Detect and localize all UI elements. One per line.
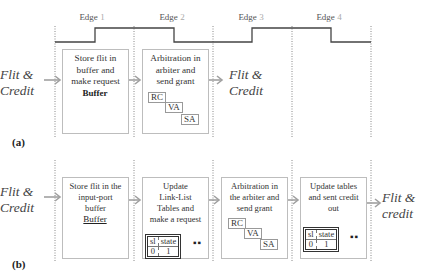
table-cell: 0 bbox=[148, 247, 158, 257]
pipeline-va-b: VA bbox=[244, 228, 262, 239]
output-label-line: Credit bbox=[229, 83, 263, 99]
text-line: send grant bbox=[143, 76, 208, 88]
buffer-title-b: Buffer bbox=[80, 214, 110, 224]
input-label-line: Flit & bbox=[0, 67, 34, 83]
edge-text: Edge bbox=[159, 12, 178, 22]
text-line: arbiter and bbox=[143, 65, 208, 77]
edge-number: 3 bbox=[259, 12, 264, 22]
stage-description: Store flit in buffer and make request bbox=[63, 50, 128, 88]
stage-description: Update tables and sent credit out bbox=[301, 178, 366, 214]
edge-number: 1 bbox=[100, 12, 105, 22]
table-cell: 0 bbox=[306, 240, 316, 250]
input-label-a: Flit & Credit bbox=[0, 67, 34, 99]
table-cell: 1 bbox=[316, 240, 336, 250]
stage-description: Arbitration in the arbiter and send gran… bbox=[222, 178, 287, 214]
buffer-title-a: Buffer bbox=[80, 88, 110, 98]
state-table-b4: sl state 0 1 bbox=[303, 227, 339, 252]
edge-text: Edge bbox=[316, 12, 335, 22]
text-line: the arbiter and bbox=[222, 192, 287, 203]
more-entries-icon: ▪▪ bbox=[350, 231, 359, 242]
text-line: Arbitration in bbox=[222, 181, 287, 192]
text-line: buffer and bbox=[63, 65, 128, 77]
edge-label-2: Edge 2 bbox=[152, 12, 192, 22]
output-label-line: Flit & bbox=[382, 190, 415, 206]
stage-description: Store flit in the input-port buffer bbox=[63, 178, 128, 214]
text-line: Store flit in the bbox=[63, 181, 128, 192]
table-cell: 1 bbox=[158, 247, 178, 257]
text-line: make request bbox=[63, 76, 128, 88]
pipeline-sa-b: SA bbox=[260, 239, 278, 250]
text-line: Arbitration in bbox=[143, 53, 208, 65]
stage-description: Update Link-List Tables and make a reque… bbox=[143, 178, 208, 225]
output-label-b: Flit & credit bbox=[382, 190, 415, 222]
input-label-line: Credit bbox=[0, 83, 34, 99]
text-line: and sent credit bbox=[301, 192, 366, 203]
linklist-table-b2: sl state 0 1 bbox=[145, 234, 181, 259]
text-line: make a request bbox=[143, 214, 208, 225]
text-line: input-port bbox=[63, 192, 128, 203]
text-line: buffer bbox=[63, 203, 128, 214]
output-label-line: credit bbox=[382, 206, 415, 222]
input-label-b: Flit & Credit bbox=[0, 184, 34, 216]
stage-description: Arbitration in arbiter and send grant bbox=[143, 50, 208, 88]
output-label-line: Flit & bbox=[229, 67, 263, 83]
edge-label-1: Edge 1 bbox=[72, 12, 112, 22]
text-line: Store flit in bbox=[63, 53, 128, 65]
edge-text: Edge bbox=[79, 12, 98, 22]
pipeline-va-a: VA bbox=[165, 102, 183, 113]
input-label-line: Credit bbox=[0, 200, 34, 216]
edge-label-3: Edge 3 bbox=[231, 12, 271, 22]
text-line: send grant bbox=[222, 203, 287, 214]
input-label-line: Flit & bbox=[0, 184, 34, 200]
clock-waveform bbox=[55, 28, 371, 42]
edge-text: Edge bbox=[238, 12, 257, 22]
text-line: Update tables bbox=[301, 181, 366, 192]
text-line: out bbox=[301, 203, 366, 214]
edge-label-4: Edge 4 bbox=[309, 12, 349, 22]
pipeline-rc-a: RC bbox=[148, 92, 166, 103]
panel-label-a: (a) bbox=[12, 136, 25, 148]
more-entries-icon: ▪▪ bbox=[193, 237, 202, 248]
edge-number: 4 bbox=[337, 12, 342, 22]
text-line: Link-List bbox=[143, 192, 208, 203]
output-label-a: Flit & Credit bbox=[229, 67, 263, 99]
text-line: Tables and bbox=[143, 203, 208, 214]
text-line: Update bbox=[143, 181, 208, 192]
panel-label-b: (b) bbox=[12, 258, 25, 270]
pipeline-sa-a: SA bbox=[181, 114, 199, 125]
edge-number: 2 bbox=[180, 12, 185, 22]
